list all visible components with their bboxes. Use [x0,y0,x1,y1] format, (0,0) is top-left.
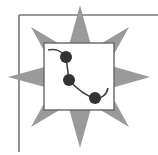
star-graph-icon [0,0,158,155]
point-icon [89,92,101,104]
icon-svg [0,0,158,155]
graph-panel [44,43,114,110]
point-icon [60,51,72,63]
point-icon [63,74,75,86]
